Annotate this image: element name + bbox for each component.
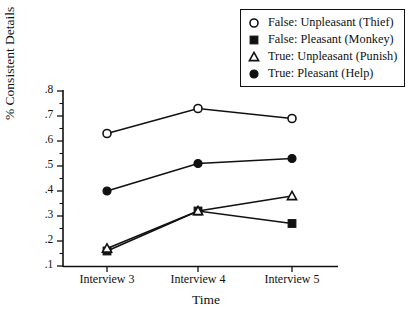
series-line — [107, 196, 292, 249]
legend-item-label: False: Unpleasant (Thief) — [262, 15, 394, 30]
y-tick-label: .6 — [20, 133, 53, 145]
series-filled-circle — [103, 155, 296, 196]
x-tick-label: Interview 5 — [242, 272, 342, 287]
legend-item-label: False: Pleasant (Monkey) — [262, 32, 394, 47]
y-tick-label: .1 — [20, 258, 53, 270]
data-point-marker — [103, 187, 111, 195]
filled-circle-icon — [246, 67, 262, 81]
data-point-marker — [194, 160, 202, 168]
data-point-marker — [249, 52, 258, 60]
axis-group — [63, 90, 338, 267]
open-circle-icon — [246, 16, 262, 30]
legend-item-label: True: Pleasant (Help) — [262, 66, 373, 81]
data-point-marker — [288, 115, 296, 123]
y-tick-label: .8 — [20, 83, 53, 95]
y-tick-marks — [57, 91, 63, 266]
legend-item: True: Pleasant (Help) — [246, 65, 397, 82]
data-point-marker — [250, 36, 258, 44]
data-point-marker — [250, 70, 258, 78]
data-point-marker — [194, 105, 202, 113]
series-open-circle — [103, 105, 296, 138]
legend-item-label: True: Unpleasant (Punish) — [262, 49, 397, 64]
legend-item: True: Unpleasant (Punish) — [246, 48, 397, 65]
line-chart-figure: .8.7.6.5.4.3.2.1 Interview 3Interview 4I… — [0, 0, 412, 330]
y-tick-label: .2 — [20, 233, 53, 245]
open-triangle-icon — [246, 50, 262, 64]
data-point-marker — [287, 191, 296, 199]
chart-legend: False: Unpleasant (Thief)False: Pleasant… — [240, 9, 405, 87]
data-point-marker — [250, 19, 258, 27]
y-tick-label: .3 — [20, 208, 53, 220]
y-axis-title: % Consistent Details — [2, 0, 18, 120]
filled-square-icon — [246, 33, 262, 47]
x-axis-title: Time — [0, 292, 412, 308]
data-point-marker — [288, 220, 296, 228]
y-tick-label: .5 — [20, 158, 53, 170]
y-tick-label: .4 — [20, 183, 53, 195]
series-line — [107, 211, 292, 251]
data-point-marker — [103, 130, 111, 138]
y-tick-label: .7 — [20, 108, 53, 120]
x-tick-label: Interview 4 — [148, 272, 248, 287]
x-tick-label: Interview 3 — [57, 272, 157, 287]
legend-item: False: Unpleasant (Thief) — [246, 14, 397, 31]
series-layer — [102, 105, 296, 255]
data-point-marker — [288, 155, 296, 163]
legend-item: False: Pleasant (Monkey) — [246, 31, 397, 48]
series-open-triangle — [102, 191, 296, 252]
